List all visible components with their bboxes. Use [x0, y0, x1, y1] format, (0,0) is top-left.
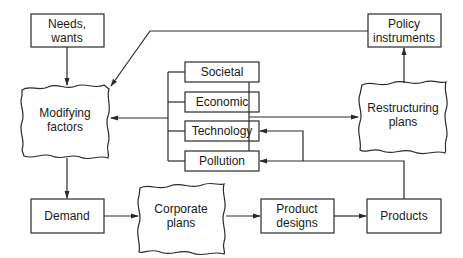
- restructuring-label: Restructuring: [367, 101, 438, 115]
- technology-label: Technology: [192, 124, 253, 138]
- designs-label: Product: [276, 202, 318, 216]
- restructuring-label-2: plans: [389, 115, 418, 129]
- designs-label-2: designs: [276, 216, 317, 230]
- needs-label: Needs,: [48, 17, 86, 31]
- policy-label: Policy: [388, 17, 420, 31]
- edge-products-to-pollution: [260, 161, 404, 199]
- pollution-label: Pollution: [199, 154, 245, 168]
- societal-label: Societal: [201, 65, 244, 79]
- corporate-label-2: plans: [167, 216, 196, 230]
- policy-label-2: instruments: [373, 31, 435, 45]
- edge-products-to-technology: [260, 131, 303, 161]
- needs-label-2: wants: [50, 31, 82, 45]
- modifying-label: Modifying: [39, 106, 90, 120]
- corporate-label: Corporate: [154, 202, 208, 216]
- flow-diagram: Needs, wants Policy instruments Modifyin…: [0, 0, 463, 258]
- demand-label: Demand: [44, 209, 89, 223]
- modifying-label-2: factors: [47, 120, 83, 134]
- economic-label: Economic: [196, 95, 249, 109]
- products-label: Products: [380, 209, 427, 223]
